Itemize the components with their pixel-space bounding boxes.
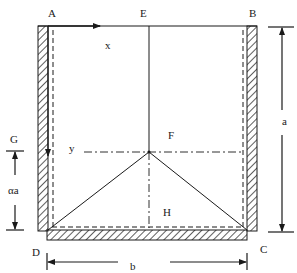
dimension-a: [268, 27, 294, 232]
label-B: B: [249, 8, 256, 19]
label-G: G: [10, 134, 18, 145]
point-F-node: [147, 150, 150, 153]
inner-dashed-boundary: [52, 30, 244, 227]
dimension-b: [47, 253, 247, 270]
label-F: F: [168, 130, 174, 141]
bottom-base-support: [47, 230, 247, 240]
label-b: b: [130, 261, 136, 272]
label-a: a: [282, 116, 287, 127]
label-A: A: [48, 8, 56, 19]
left-wall-support: [38, 26, 48, 231]
label-E: E: [140, 8, 147, 19]
yield-line-FC: [149, 152, 247, 230]
label-alpha-a: αa: [8, 185, 19, 196]
label-C: C: [260, 244, 267, 255]
right-wall-support: [247, 26, 257, 231]
plate-diagram: [0, 0, 297, 273]
label-x-axis: x: [105, 40, 111, 51]
label-H: H: [163, 207, 171, 218]
label-y-axis: y: [69, 143, 75, 154]
label-D: D: [32, 247, 40, 258]
yield-line-FD: [48, 152, 149, 230]
